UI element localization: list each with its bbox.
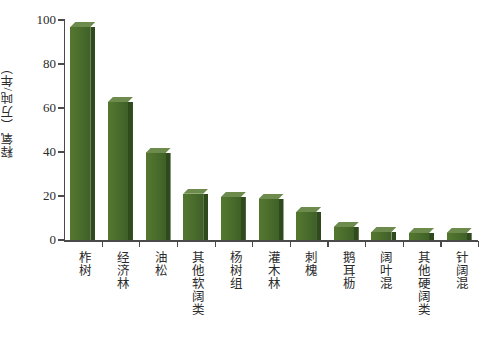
x-axis-category-label: 其他软阔类 <box>188 251 204 316</box>
y-axis-tick <box>58 239 65 240</box>
bar-side-face <box>391 232 396 240</box>
bar-side-face <box>354 227 359 240</box>
y-axis-tick <box>58 107 65 108</box>
bar-side-face <box>241 197 246 240</box>
x-axis-tick <box>252 241 253 247</box>
x-axis-category-label: 其他硬阔类 <box>414 251 430 316</box>
y-axis-tick <box>58 195 65 196</box>
x-axis-line <box>64 240 478 242</box>
bar-side-face <box>90 27 95 240</box>
bar <box>447 228 472 240</box>
x-axis-category-label: 柞树 <box>75 251 91 277</box>
bar <box>146 148 171 240</box>
bar <box>183 189 208 240</box>
bar-side-face <box>467 233 472 240</box>
x-axis-tick <box>290 241 291 247</box>
x-axis-tick <box>177 241 178 247</box>
bar <box>334 222 359 240</box>
x-axis-category-label: 油松 <box>150 251 166 277</box>
oxygen-release-bar-chart: 释氧（万吨/年） 020406080100 柞树经济林油松其他软阔类杨树组灌木林… <box>0 0 499 339</box>
x-axis-category-label: 刺槐 <box>301 251 317 277</box>
y-axis-tick-label: 100 <box>16 13 56 26</box>
bar-side-face <box>429 233 434 240</box>
bar-side-face <box>203 194 208 240</box>
x-axis-tick <box>327 241 328 247</box>
bar <box>409 228 434 240</box>
bar-front-face <box>259 199 279 240</box>
x-axis-category-label: 针阔混 <box>451 251 467 290</box>
x-axis-tick <box>102 241 103 247</box>
x-axis-tick <box>139 241 140 247</box>
bar-side-face <box>316 212 321 240</box>
bar-side-face <box>166 153 171 240</box>
y-axis-tick-label: 20 <box>16 189 56 202</box>
bar-front-face <box>146 153 166 240</box>
bar-front-face <box>183 194 203 240</box>
bar-front-face <box>221 197 241 240</box>
x-axis-tick <box>478 241 479 247</box>
y-axis-tick-label: 80 <box>16 57 56 70</box>
y-axis-tick-label: 0 <box>16 233 56 246</box>
bar-front-face <box>70 27 90 240</box>
bar <box>70 22 95 240</box>
x-axis-category-label: 经济林 <box>112 251 128 290</box>
bar-front-face <box>409 233 429 240</box>
y-axis-tick-label: 60 <box>16 101 56 114</box>
y-axis-tick-labels: 020406080100 <box>10 0 56 339</box>
bar-front-face <box>447 233 467 240</box>
bar-front-face <box>296 212 316 240</box>
y-axis-line <box>64 20 65 241</box>
x-axis-tick <box>215 241 216 247</box>
y-axis-tick <box>58 19 65 20</box>
bar-front-face <box>371 232 391 240</box>
y-axis-tick <box>58 151 65 152</box>
x-axis-category-label: 阔叶混 <box>376 251 392 290</box>
bar-front-face <box>108 102 128 240</box>
bar <box>221 192 246 240</box>
bar-side-face <box>128 102 133 240</box>
y-axis-tick-label: 40 <box>16 145 56 158</box>
x-axis-category-label: 鹅耳枥 <box>338 251 354 290</box>
bar <box>108 97 133 240</box>
bar <box>371 227 396 240</box>
x-axis-tick <box>440 241 441 247</box>
y-axis-tick <box>58 63 65 64</box>
x-axis-category-label: 灌木林 <box>263 251 279 290</box>
x-axis-category-label: 杨树组 <box>225 251 241 290</box>
x-axis-tick <box>365 241 366 247</box>
x-axis-tick <box>403 241 404 247</box>
bar-side-face <box>279 199 284 240</box>
bar-front-face <box>334 227 354 240</box>
bar <box>259 194 284 240</box>
bar <box>296 207 321 240</box>
